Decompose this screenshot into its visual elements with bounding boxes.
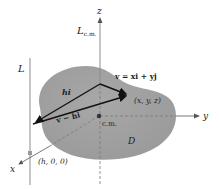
z-axis-label: z [96,6,102,16]
x-axis-label: x [10,164,15,174]
cm-label: c.m. [102,120,117,128]
point-xyz-label: (x, y, z) [134,96,161,105]
region-d-label: D [127,136,135,146]
point-h00-label: (h, 0, 0) [38,157,68,166]
vector-v-label: v = xi + yj [114,72,157,81]
y-axis-arrowhead-icon [194,114,200,119]
parallel-axis-diagram: z y x L Lc.m. hi v = xi + yj v − hi (x, … [0,0,219,189]
vector-hi-label: hi [62,87,71,97]
line-l-label: L [17,63,25,74]
point-h00-marker [28,151,32,155]
y-axis-label: y [202,111,209,121]
z-axis-arrowhead-icon [98,17,103,23]
line-lcm-label: Lc.m. [76,25,97,37]
cm-dot [97,114,101,118]
